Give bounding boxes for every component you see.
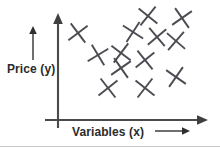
axis-right-arrow-icon xyxy=(197,115,208,125)
data-point-marker xyxy=(136,79,155,98)
right-arrow-icon xyxy=(182,127,190,135)
data-point-marker xyxy=(88,45,109,66)
axes-group xyxy=(45,13,208,128)
y-direction-annotation xyxy=(29,26,37,60)
scatter-plot-figure: Price (y) Variables (x) xyxy=(0,0,220,147)
y-axis-label: Price (y) xyxy=(7,62,55,76)
data-point-marker xyxy=(167,32,185,50)
up-arrow-icon xyxy=(29,26,37,34)
data-point-marker xyxy=(148,28,166,46)
data-point-marker xyxy=(99,79,118,98)
x-axis-label: Variables (x) xyxy=(72,125,144,139)
data-point-marker xyxy=(136,51,155,70)
x-direction-annotation xyxy=(155,127,190,135)
axis-up-arrow-icon xyxy=(53,13,63,24)
data-points-group xyxy=(68,7,191,98)
data-point-marker xyxy=(166,67,186,87)
data-point-marker xyxy=(68,23,87,42)
data-point-marker xyxy=(172,8,192,28)
data-point-marker xyxy=(139,7,158,26)
